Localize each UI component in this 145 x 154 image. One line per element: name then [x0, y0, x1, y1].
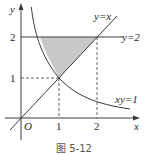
y-axis-label: y — [9, 3, 15, 15]
label-y-equals-2: y=2 — [121, 31, 140, 43]
x-axis-label: x — [133, 120, 139, 132]
figure-caption: 图 5-12 — [56, 143, 92, 154]
origin-label: O — [24, 120, 32, 132]
shaded-region — [40, 37, 97, 78]
label-y-equals-x: y=x — [93, 10, 111, 22]
x-tick-2: 2 — [94, 120, 100, 132]
y-axis-arrow-icon — [19, 3, 24, 10]
y-tick-1: 1 — [10, 72, 16, 84]
line-y-equals-x — [10, 16, 117, 130]
x-tick-1: 1 — [56, 120, 62, 132]
y-tick-2: 2 — [10, 31, 16, 43]
diagram: y x O 1 2 1 2 y=x y=2 xy=1 图 5-12 — [0, 0, 145, 154]
label-xy-equals-1: xy=1 — [114, 93, 138, 105]
